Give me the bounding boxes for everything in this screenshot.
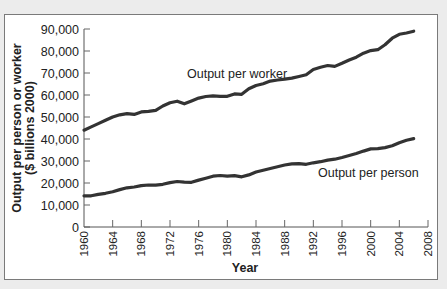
x-tick-label: 1972 (164, 231, 176, 257)
y-tick-label: 50,000 (41, 111, 79, 125)
y-tick-label: 80,000 (41, 45, 79, 59)
x-tick-label: 1976 (193, 231, 205, 257)
x-tick-label: 1984 (250, 230, 262, 256)
y-axis-title-line2: ($ billions 2000) (23, 81, 37, 175)
y-tick-label: 70,000 (41, 67, 79, 81)
x-tick-label: 2008 (422, 231, 434, 257)
line-chart: 010,00020,00030,00040,00050,00060,00070,… (0, 0, 447, 289)
x-tick-label: 1996 (336, 231, 348, 257)
series-label-worker: Output per worker (187, 67, 287, 81)
y-tick-label: 90,000 (41, 23, 79, 37)
x-tick-label: 1964 (107, 230, 119, 256)
x-axis-title: Year (232, 261, 259, 275)
y-axis: 010,00020,00030,00040,00050,00060,00070,… (41, 23, 90, 235)
y-tick-label: 20,000 (41, 177, 79, 191)
x-tick-label: 2004 (393, 230, 405, 256)
x-tick-label: 1960 (78, 231, 90, 257)
series-label-person: Output per person (318, 166, 419, 180)
y-tick-label: 30,000 (41, 155, 79, 169)
x-tick-label: 1992 (307, 231, 319, 257)
x-tick-label: 1988 (279, 231, 291, 257)
x-tick-label: 1968 (135, 231, 147, 257)
x-tick-label: 1980 (221, 231, 233, 257)
y-tick-label: 40,000 (41, 133, 79, 147)
x-tick-label: 2000 (365, 231, 377, 257)
y-tick-label: 10,000 (41, 199, 79, 213)
x-axis: 1960196419681972197619801984198819921996… (78, 220, 434, 257)
y-axis-title-line1: Output per person or worker (10, 43, 24, 213)
y-tick-label: 60,000 (41, 89, 79, 103)
